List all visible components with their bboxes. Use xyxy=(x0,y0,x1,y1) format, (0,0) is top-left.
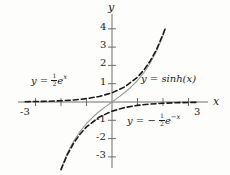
y-axis-label: y xyxy=(108,2,114,13)
axes-group xyxy=(18,14,208,168)
y-tick-label-minus-2: -2 xyxy=(96,132,106,142)
y-tick-label-1: 1 xyxy=(100,77,106,87)
curve-series-1 xyxy=(25,27,165,101)
annotation-half-exp-x-lhs: y = xyxy=(31,75,48,86)
x-tick-label-3: 3 xyxy=(194,107,200,117)
annotation-half-exp-x-exponent: x xyxy=(63,73,67,81)
y-tick-label-2: 2 xyxy=(100,58,106,68)
annotation-neg-half-exp-negx: y = − 1 2 e−x xyxy=(127,113,180,127)
annotation-half-exp-x: y = 1 2 ex xyxy=(31,73,67,87)
chart-figure: 4 3 2 1 -1 -2 -3 -3 3 y x y = 1 2 ex y =… xyxy=(0,0,230,175)
y-tick-label-minus-3: -3 xyxy=(96,150,106,160)
chart-plot-area xyxy=(0,0,230,175)
y-tick-label-3: 3 xyxy=(100,40,106,50)
annotation-neg-half-exp-negx-lhs: y = − xyxy=(127,115,156,126)
y-tick-label-4: 4 xyxy=(100,22,106,32)
annotation-sinh: y = sinh(x) xyxy=(141,74,196,84)
x-tick-label-minus-3: -3 xyxy=(20,107,30,117)
x-axis-label: x xyxy=(213,96,219,107)
annotation-neg-half-exp-negx-exponent: −x xyxy=(171,113,181,121)
curve-series-0 xyxy=(61,28,166,168)
y-tick-label-minus-1: -1 xyxy=(96,114,106,124)
